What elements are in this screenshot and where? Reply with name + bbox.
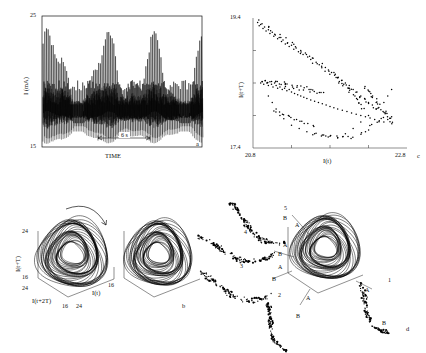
panel-d-poincare-sections: 5 4 3 2 1 A B A B A B A B A B d [210, 185, 426, 353]
return-map-point [287, 42, 289, 44]
poincare-section-point [257, 298, 258, 299]
poincare-section-point [365, 314, 366, 315]
poincare-section-point [232, 205, 233, 206]
return-map-point [279, 83, 281, 85]
return-map-point [303, 87, 305, 89]
return-map-point [328, 71, 330, 73]
return-map-point [293, 48, 295, 50]
poincare-section-point [266, 298, 267, 299]
poincare-section-point [254, 302, 255, 303]
return-map-point [355, 113, 357, 115]
return-map-point [303, 123, 305, 125]
panel-c-xtick-right: 22.8 [395, 152, 406, 158]
return-map-point [387, 119, 389, 121]
poincare-section-point [247, 298, 248, 299]
return-map-point [346, 111, 348, 113]
poincare-section-point [248, 260, 250, 262]
return-map-point [322, 103, 324, 105]
return-map-point [360, 115, 362, 117]
poincare-section-point [235, 296, 236, 297]
timeseries-trace [43, 28, 203, 143]
poincare-section-point [383, 331, 385, 333]
return-map-point [306, 131, 308, 133]
poincare-section-point [269, 312, 270, 313]
panel-a-ytick-bottom: 15 [30, 143, 36, 149]
poincare-section-point [271, 320, 273, 322]
return-map-point [323, 92, 325, 94]
return-map-point [282, 89, 284, 91]
return-map-point [335, 73, 337, 75]
return-map-point [281, 41, 283, 43]
return-map-point [378, 107, 380, 109]
return-map-point [291, 91, 293, 93]
poincare-section-point [251, 297, 253, 299]
return-map-point [310, 59, 312, 61]
return-map-point [312, 63, 314, 65]
poincare-section-point [248, 222, 249, 223]
return-map-point [347, 136, 349, 138]
poincare-section-point [363, 298, 364, 299]
poincare-section-point [228, 291, 229, 292]
poincare-section-point [250, 225, 251, 226]
return-map-point [291, 125, 293, 127]
poincare-section-point [280, 347, 281, 348]
poincare-section-point [217, 246, 218, 247]
panel-b-ylabel: I(t+T) [14, 256, 21, 272]
poincare-section-point [260, 239, 261, 240]
return-map-point [285, 86, 287, 88]
return-map-point [282, 39, 284, 41]
return-map-point [336, 135, 338, 137]
return-map-point [274, 82, 276, 84]
return-map-point [350, 138, 352, 140]
return-map-point [280, 37, 282, 39]
poincare-section-point [369, 315, 370, 316]
return-map-point [331, 72, 333, 74]
return-map-point [261, 81, 263, 83]
poincare-section-point [241, 261, 242, 262]
return-map-point [303, 97, 305, 99]
poincare-section-point [266, 295, 267, 296]
poincare-section-point [283, 349, 285, 351]
panel-a-scalebar-label: 6 s [119, 132, 130, 138]
poincare-section-point [225, 292, 226, 293]
return-map-point [322, 63, 324, 65]
poincare-section-point [250, 231, 251, 232]
return-map-point [314, 91, 316, 93]
panel-d-section-label-2: 2 [278, 292, 281, 298]
return-map-point [293, 44, 295, 46]
panel-a-xlabel: TIME [105, 152, 121, 159]
poincare-section-point [206, 273, 207, 274]
poincare-section-point [270, 330, 271, 331]
poincare-section-point [200, 271, 201, 272]
return-map-point [380, 109, 382, 111]
poincare-section-point [273, 341, 274, 342]
return-map-point [298, 128, 300, 130]
poincare-section-point [204, 273, 205, 274]
return-map-point [291, 85, 293, 87]
return-map-point [318, 64, 320, 66]
poincare-section-point [263, 299, 264, 300]
return-map-point [257, 22, 259, 24]
poincare-section-point [199, 238, 200, 239]
poincare-section-point [220, 286, 221, 287]
return-map-point [292, 42, 294, 44]
return-map-point [360, 104, 362, 106]
poincare-section-point [388, 333, 389, 334]
poincare-section-point [232, 209, 233, 210]
panel-b-tick-right-far: 16 [108, 282, 114, 288]
return-map-point [330, 135, 332, 137]
panel-c-xtick-left: 20.8 [245, 152, 256, 158]
return-map-point [342, 136, 344, 138]
return-map-point [307, 123, 309, 125]
poincare-section-point [276, 242, 277, 243]
return-map-point [383, 112, 385, 114]
poincare-section-point [271, 332, 272, 333]
poincare-section-point [363, 303, 364, 304]
return-map-point [273, 35, 275, 37]
return-map-point [279, 34, 281, 36]
return-map-point [372, 104, 374, 106]
return-map-point [391, 89, 393, 91]
panel-b-letter: b [182, 302, 185, 309]
poincare-section-point [360, 288, 361, 289]
return-map-point [275, 111, 277, 113]
